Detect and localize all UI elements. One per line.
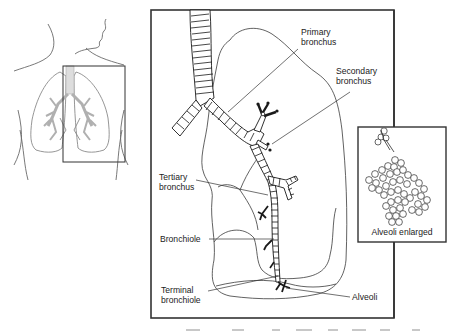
alveolus <box>396 219 403 226</box>
torso-left-outline <box>20 130 28 180</box>
leader-secondary-bronchus <box>272 92 350 144</box>
torso-overview <box>14 19 128 180</box>
upper-secondary-bronchus <box>254 114 266 132</box>
svg-text:Bronchiole: Bronchiole <box>160 234 201 244</box>
label-alveoli: Alveoli <box>286 288 377 302</box>
alveolus <box>400 211 407 218</box>
alveolus <box>401 191 408 198</box>
inset-caption: Alveoli enlarged <box>371 227 432 237</box>
alveolus <box>380 175 387 182</box>
leader-primary-bronchus <box>228 49 298 112</box>
leader-terminal-bronchiole <box>208 276 278 291</box>
lower-bronchus <box>250 144 280 282</box>
right-primary-bronchus <box>204 98 264 146</box>
alveolus <box>421 186 428 193</box>
alveolus <box>395 187 402 194</box>
svg-text:Alveoli: Alveoli <box>352 292 377 302</box>
leader-alveoli <box>286 288 350 297</box>
alveolus <box>385 163 392 170</box>
shoulder-right-outline <box>86 48 124 65</box>
arm-right-outline <box>121 110 128 165</box>
alveolus <box>375 139 381 145</box>
alveolus <box>389 219 396 226</box>
alveolus <box>383 183 390 190</box>
overview-right-lung <box>74 72 109 152</box>
left-primary-bronchus <box>172 100 202 136</box>
alveolus <box>404 181 411 188</box>
neck-face-outline <box>75 19 106 54</box>
alveolus <box>412 189 419 196</box>
svg-text:bronchus: bronchus <box>301 37 336 47</box>
alveolus <box>415 201 422 208</box>
bronchial-tree-diagram: Primary bronchus Secondary bronchus Tert… <box>0 0 456 331</box>
alveolus <box>397 177 404 184</box>
alveolus <box>398 160 405 167</box>
alveolus <box>416 180 423 187</box>
alveolus <box>372 171 379 178</box>
alveolus <box>369 185 376 192</box>
alveolus <box>381 192 388 199</box>
arm-left-outline <box>14 110 21 165</box>
alveolus <box>395 197 402 204</box>
svg-text:bronchus: bronchus <box>159 182 194 192</box>
alveolus <box>402 199 409 206</box>
alveolus <box>418 193 425 200</box>
svg-text:bronchus: bronchus <box>336 76 371 86</box>
alveolus <box>379 167 386 174</box>
lung-fissure-mid <box>240 190 258 230</box>
shoulder-left-outline <box>14 24 54 71</box>
label-primary-bronchus: Primary bronchus <box>228 27 336 112</box>
label-tertiary-bronchus: Tertiary bronchus <box>159 172 268 195</box>
overview-left-lung <box>31 72 66 152</box>
svg-text:Primary: Primary <box>301 27 331 37</box>
alveolus <box>424 197 431 204</box>
label-bronchiole: Bronchiole <box>160 234 274 244</box>
svg-text:bronchiole: bronchiole <box>161 295 201 305</box>
svg-text:Terminal: Terminal <box>161 285 194 295</box>
alveolus <box>409 207 416 214</box>
bronchial-tree <box>172 10 298 292</box>
alveolus <box>416 209 423 216</box>
svg-text:Tertiary: Tertiary <box>159 172 188 182</box>
torso-right-outline <box>116 130 122 180</box>
alveolus <box>387 171 394 178</box>
alveolus <box>390 179 397 186</box>
alveolus <box>383 203 390 210</box>
leader-tertiary-bronchus <box>196 180 268 195</box>
alveolus <box>422 204 429 211</box>
svg-text:Secondary: Secondary <box>336 66 378 76</box>
alveolus <box>388 189 395 196</box>
alveolus <box>366 177 373 184</box>
alveoli-inset: Alveoli enlarged <box>358 10 446 318</box>
